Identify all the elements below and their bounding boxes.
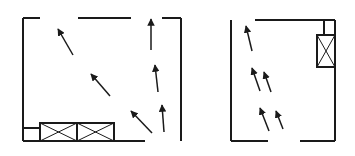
airflow-arrow-icon <box>155 65 158 92</box>
airflow-arrow-icon <box>264 72 271 92</box>
room-airflow-diagram <box>0 0 355 156</box>
airflow-arrow-icon <box>276 111 283 129</box>
airflow-arrow-icon <box>58 29 73 55</box>
equipment-unit-icon <box>40 123 77 141</box>
airflow-arrow-icon <box>131 111 152 133</box>
airflow-arrow-icon <box>260 108 269 131</box>
right-room-plan <box>231 20 335 141</box>
diagram-canvas <box>0 0 355 156</box>
airflow-arrow-icon <box>246 26 252 51</box>
airflow-arrow-icon <box>252 68 260 91</box>
airflow-arrow-icon <box>91 74 110 96</box>
equipment-unit-icon <box>77 123 114 141</box>
airflow-arrow-icon <box>162 105 164 132</box>
left-room-plan <box>23 18 181 141</box>
equipment-unit-icon <box>317 35 335 67</box>
